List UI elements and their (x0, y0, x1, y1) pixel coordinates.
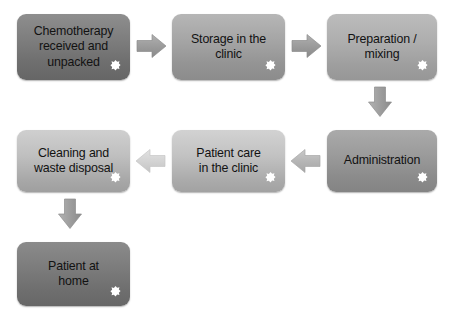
arrow-administration-to-care (290, 148, 321, 174)
process-node-patient-at-home[interactable]: Patient at home (17, 242, 130, 306)
arrow-received-to-storage (136, 33, 167, 59)
arrow-storage-to-preparation (291, 33, 322, 59)
process-node-administration[interactable]: Administration (327, 130, 437, 192)
flower-icon (414, 171, 431, 188)
node-label: Storage in the clinic (184, 32, 273, 62)
node-label: Patient care in the clinic (189, 146, 267, 176)
node-label: Cleaning and waste disposal (27, 146, 120, 176)
node-label: Chemotherapy received and unpacked (27, 24, 120, 70)
node-label: Preparation / mixing (341, 32, 424, 62)
arrow-cleaning-to-home (57, 198, 83, 230)
process-node-preparation-mixing[interactable]: Preparation / mixing (327, 14, 437, 80)
arrow-care-to-cleaning (135, 148, 166, 174)
arrow-preparation-to-administration (367, 86, 393, 118)
flower-icon (107, 285, 124, 302)
flowchart-canvas: Chemotherapy received and unpacked Stora… (0, 0, 452, 323)
process-node-chemotherapy-received[interactable]: Chemotherapy received and unpacked (17, 14, 130, 80)
process-node-cleaning-waste-disposal[interactable]: Cleaning and waste disposal (17, 130, 130, 192)
process-node-storage-in-clinic[interactable]: Storage in the clinic (172, 14, 285, 80)
process-node-patient-care-in-clinic[interactable]: Patient care in the clinic (172, 130, 285, 192)
node-label: Patient at home (41, 259, 106, 289)
node-label: Administration (337, 153, 427, 168)
